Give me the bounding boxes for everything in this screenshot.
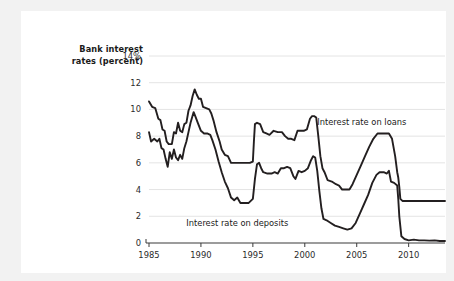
annotation-deposits: Interest rate on deposits bbox=[186, 218, 288, 228]
figure-root: Bank interest rates (percent) 0246810121… bbox=[0, 0, 454, 281]
x-tick-label-1990: 1990 bbox=[184, 250, 218, 260]
y-tick-label-10: 10 bbox=[113, 104, 141, 114]
y-tick-labels: 02468101214% bbox=[21, 11, 446, 273]
chart-plot-wrapper: Bank interest rates (percent) 0246810121… bbox=[21, 11, 446, 273]
x-tick-label-1995: 1995 bbox=[236, 250, 270, 260]
y-tick-label-4: 4 bbox=[113, 185, 141, 195]
annotation-loans: Interest rate on loans bbox=[317, 117, 406, 127]
x-tick-label-1985: 1985 bbox=[132, 250, 166, 260]
y-tick-label-6: 6 bbox=[113, 158, 141, 168]
y-tick-label-14: 14% bbox=[113, 51, 141, 61]
chart-card: Bank interest rates (percent) 0246810121… bbox=[21, 11, 446, 273]
y-tick-label-8: 8 bbox=[113, 131, 141, 141]
x-tick-label-2000: 2000 bbox=[288, 250, 322, 260]
y-tick-label-12: 12 bbox=[113, 78, 141, 88]
x-tick-label-2005: 2005 bbox=[340, 250, 374, 260]
y-tick-label-0: 0 bbox=[113, 238, 141, 248]
y-tick-label-2: 2 bbox=[113, 211, 141, 221]
x-tick-label-2010: 2010 bbox=[392, 250, 426, 260]
